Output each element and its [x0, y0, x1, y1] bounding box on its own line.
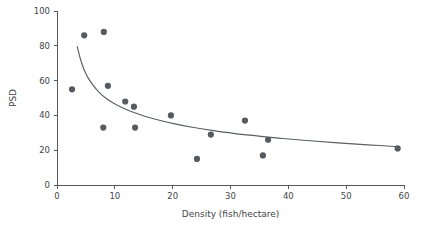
- x-axis-tick-group: 0102030405060: [54, 185, 409, 201]
- x-axis-title: Density (fish/hectare): [182, 209, 279, 219]
- y-tick-label: 60: [39, 76, 50, 86]
- scatter-chart: 020406080100 0102030405060 Density (fish…: [0, 0, 429, 233]
- x-tick-label: 0: [54, 191, 59, 201]
- data-point: [395, 145, 401, 151]
- y-tick-label: 80: [39, 41, 50, 51]
- data-point: [122, 98, 128, 104]
- chart-canvas: 020406080100 0102030405060 Density (fish…: [0, 0, 429, 233]
- data-point: [208, 131, 214, 137]
- data-point: [168, 112, 174, 118]
- y-tick-label: 100: [34, 6, 50, 16]
- x-tick-label: 20: [167, 191, 178, 201]
- data-point: [265, 137, 271, 143]
- data-point: [260, 152, 266, 158]
- data-point: [194, 156, 200, 162]
- data-point: [101, 29, 107, 35]
- x-tick-label: 30: [225, 191, 236, 201]
- x-tick-label: 50: [341, 191, 352, 201]
- data-point: [105, 83, 111, 89]
- data-point: [131, 104, 137, 110]
- x-tick-label: 60: [399, 191, 410, 201]
- y-tick-label: 0: [45, 180, 50, 190]
- y-axis-tick-group: 020406080100: [34, 6, 57, 190]
- trend-curve: [77, 47, 398, 147]
- y-tick-label: 20: [39, 145, 50, 155]
- data-point: [100, 124, 106, 130]
- data-point: [81, 32, 87, 38]
- data-point: [69, 86, 75, 92]
- x-tick-label: 40: [283, 191, 294, 201]
- data-point: [132, 124, 138, 130]
- data-point: [242, 118, 248, 124]
- y-axis-title: PSD: [8, 89, 18, 107]
- data-point-group: [69, 29, 401, 162]
- x-tick-label: 10: [109, 191, 120, 201]
- y-tick-label: 40: [39, 110, 50, 120]
